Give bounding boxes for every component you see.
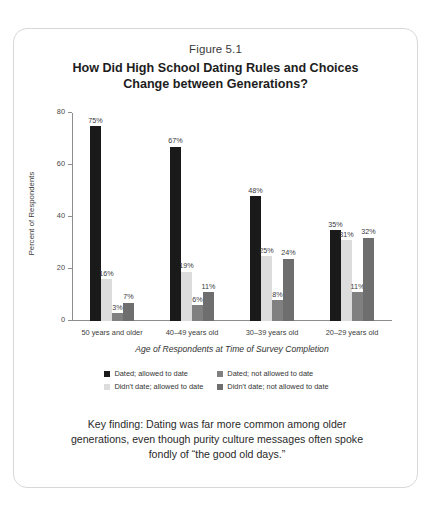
bar[interactable] xyxy=(192,305,203,321)
y-axis-line xyxy=(72,113,73,321)
bar-group: 48%25%8%24% xyxy=(250,113,294,321)
x-axis-tick-label: 20–29 years old xyxy=(326,328,379,337)
bar[interactable] xyxy=(352,292,363,321)
bar[interactable] xyxy=(123,303,134,321)
bar-group: 67%19%6%11% xyxy=(170,113,214,321)
y-axis-tick: 80 xyxy=(46,112,72,113)
bar-group: 35%31%11%32% xyxy=(330,113,374,321)
bar[interactable] xyxy=(272,300,283,321)
bar-slot: 25% xyxy=(261,113,272,321)
bar-slot: 11% xyxy=(352,113,363,321)
bar[interactable] xyxy=(250,196,261,321)
bar-value-label: 11% xyxy=(202,282,216,291)
bar[interactable] xyxy=(181,272,192,321)
bar-slot: 67% xyxy=(170,113,181,321)
bar-chart: 020406080 75%16%3%7%67%19%6%11%48%25%8%2… xyxy=(72,113,392,321)
legend-item[interactable]: Didn't date; not allowed to date xyxy=(217,382,328,391)
x-axis-tick-label: 30–39 years old xyxy=(246,328,299,337)
bar[interactable] xyxy=(170,147,181,321)
bar[interactable] xyxy=(261,256,272,321)
bar-slot: 48% xyxy=(250,113,261,321)
y-axis-tick: 0 xyxy=(46,320,72,321)
legend-swatch xyxy=(217,371,223,377)
chart-title-line-1: How Did High School Dating Rules and Cho… xyxy=(72,61,358,75)
bar-value-label: 8% xyxy=(272,290,282,299)
y-axis-tick: 60 xyxy=(46,164,72,165)
chart-title: How Did High School Dating Rules and Cho… xyxy=(14,61,417,92)
y-axis-tick-mark xyxy=(68,164,72,165)
bar[interactable] xyxy=(203,292,214,321)
y-axis-tick-mark xyxy=(68,320,72,321)
x-axis-title: Age of Respondents at Time of Survey Com… xyxy=(72,344,392,354)
bar-group: 75%16%3%7% xyxy=(90,113,134,321)
chart-title-line-2: Change between Generations? xyxy=(123,77,308,91)
legend-swatch xyxy=(217,384,223,390)
bar-slot: 11% xyxy=(203,113,214,321)
bar[interactable] xyxy=(283,259,294,321)
bar-slot: 8% xyxy=(272,113,283,321)
y-axis-tick-mark xyxy=(68,216,72,217)
bar-slot: 7% xyxy=(123,113,134,321)
y-axis-tick: 20 xyxy=(46,268,72,269)
legend-item[interactable]: Didn't date; allowed to date xyxy=(104,382,203,391)
bar-slot: 32% xyxy=(363,113,374,321)
y-axis-tick: 40 xyxy=(46,216,72,217)
bar-value-label: 24% xyxy=(281,248,295,257)
bar-value-label: 7% xyxy=(123,292,133,301)
legend-label: Didn't date; allowed to date xyxy=(114,382,203,391)
bar[interactable] xyxy=(101,279,112,321)
y-axis-tick-label: 20 xyxy=(57,263,65,272)
bar-slot: 3% xyxy=(112,113,123,321)
bar[interactable] xyxy=(112,313,123,321)
legend-item[interactable]: Dated; allowed to date xyxy=(104,369,203,378)
bar[interactable] xyxy=(341,240,352,321)
x-axis-tick-label: 40–49 years old xyxy=(166,328,219,337)
key-finding-text: Key finding: Dating was far more common … xyxy=(58,417,376,462)
legend-label: Didn't date; not allowed to date xyxy=(227,382,328,391)
y-axis-tick-label: 0 xyxy=(61,315,65,324)
bar-value-label: 3% xyxy=(112,303,122,312)
bar-value-label: 32% xyxy=(361,227,375,236)
legend-item[interactable]: Dated; not allowed to date xyxy=(217,369,328,378)
chart-plot-area: Percent of Respondents 020406080 75%16%3… xyxy=(14,101,419,363)
y-axis-title: Percent of Respondents xyxy=(27,149,36,279)
figure-card: Figure 5.1 How Did High School Dating Ru… xyxy=(13,28,418,488)
legend-grid: Dated; allowed to dateDated; not allowed… xyxy=(104,369,328,391)
bar-value-label: 6% xyxy=(192,295,202,304)
bar-slot: 19% xyxy=(181,113,192,321)
figure-caption: Figure 5.1 xyxy=(14,43,417,55)
y-axis-tick-label: 60 xyxy=(57,159,65,168)
y-axis-tick-label: 40 xyxy=(57,211,65,220)
bar-slot: 75% xyxy=(90,113,101,321)
bar[interactable] xyxy=(90,126,101,321)
legend-swatch xyxy=(104,371,110,377)
legend-label: Dated; not allowed to date xyxy=(227,369,313,378)
chart-legend: Dated; allowed to dateDated; not allowed… xyxy=(14,369,419,391)
legend-swatch xyxy=(104,384,110,390)
legend-label: Dated; allowed to date xyxy=(114,369,188,378)
y-axis-tick-mark xyxy=(68,112,72,113)
y-axis-tick-mark xyxy=(68,268,72,269)
bar-slot: 35% xyxy=(330,113,341,321)
bar[interactable] xyxy=(330,230,341,321)
x-axis-tick-label: 50 years and older xyxy=(81,328,142,337)
y-axis-tick-label: 80 xyxy=(57,107,65,116)
bar-slot: 16% xyxy=(101,113,112,321)
bar-slot: 24% xyxy=(283,113,294,321)
bar[interactable] xyxy=(363,238,374,321)
